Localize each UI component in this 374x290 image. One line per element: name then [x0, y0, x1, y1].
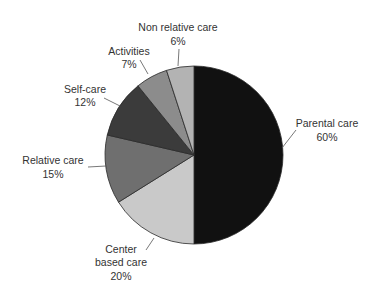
- leader-selfcare: [104, 98, 120, 106]
- label-selfcare-value: 12%: [74, 96, 95, 108]
- label-center-based-care: Center based care 20%: [95, 243, 147, 282]
- label-self-care: Self-care 12%: [64, 83, 106, 108]
- label-relative-care: Relative care 15%: [22, 154, 83, 180]
- leader-relative: [88, 166, 106, 167]
- label-relative-value: 15%: [42, 168, 63, 180]
- leader-activities: [140, 60, 148, 74]
- leader-parental: [282, 130, 296, 148]
- label-non-relative-care: Non relative care 6%: [138, 21, 218, 47]
- label-selfcare-name: Self-care: [64, 83, 106, 95]
- label-activities-value: 7%: [121, 58, 136, 70]
- label-parental-name: Parental care: [296, 117, 359, 129]
- label-relative-name: Relative care: [22, 154, 83, 166]
- leader-center: [146, 238, 154, 250]
- label-nonrelative-name: Non relative care: [138, 21, 218, 33]
- label-activities-name: Activities: [108, 45, 149, 57]
- pie-chart: Parental care 60% Center based care 20% …: [0, 0, 374, 290]
- label-center-value: 20%: [110, 270, 131, 282]
- label-center-name-1: Center: [105, 243, 137, 255]
- label-center-name-2: based care: [95, 256, 147, 268]
- pie-slices: [105, 66, 283, 244]
- label-parental-care: Parental care 60%: [296, 117, 359, 143]
- label-nonrelative-value: 6%: [170, 35, 185, 47]
- label-parental-value: 60%: [316, 131, 337, 143]
- slice-parental-care: [194, 66, 283, 244]
- leader-nonrelative: [178, 49, 179, 66]
